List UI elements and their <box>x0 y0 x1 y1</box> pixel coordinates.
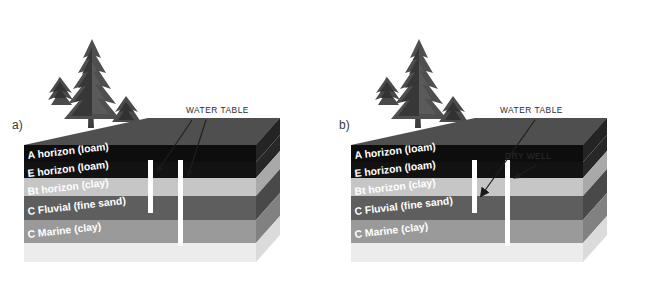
tree-group <box>375 39 468 128</box>
tree-small-left <box>375 76 400 105</box>
tree-group <box>48 39 141 128</box>
well-deep <box>178 160 183 246</box>
annotation-water-table: WATER TABLE <box>186 105 249 115</box>
ground-surface <box>24 118 280 145</box>
layer-base-front <box>24 243 256 262</box>
well-deep <box>505 160 510 246</box>
tree-small-right <box>439 96 468 122</box>
tree-small-right <box>112 96 141 122</box>
panel-b-label: b) <box>339 118 350 132</box>
panel-a-label: a) <box>12 118 23 132</box>
tree-small-left <box>48 76 73 105</box>
well-shallow <box>148 160 153 213</box>
panel-b-diagram: WATER TABLE DRY WELL A horizon (loam) E … <box>327 0 654 295</box>
annotation-dry-well: DRY WELL <box>505 151 552 161</box>
panel-b: WATER TABLE DRY WELL A horizon (loam) E … <box>327 0 654 295</box>
tree-main <box>391 39 447 128</box>
ground-surface <box>351 118 607 145</box>
panel-a-diagram: WATER TABLE A horizon (loam) E horizon (… <box>0 0 327 295</box>
figure-canvas: WATER TABLE A horizon (loam) E horizon (… <box>0 0 654 295</box>
panel-a: WATER TABLE A horizon (loam) E horizon (… <box>0 0 327 295</box>
layer-base-front <box>351 243 583 262</box>
well-dry <box>472 160 477 213</box>
tree-main <box>64 39 120 128</box>
annotation-water-table: WATER TABLE <box>500 105 563 115</box>
